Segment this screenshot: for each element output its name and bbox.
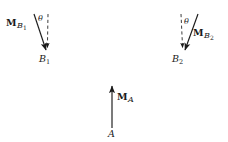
vector-diagram-svg (0, 0, 228, 142)
point-label-a: A (108, 129, 115, 139)
moment-symbol-b2: M (193, 27, 204, 38)
moment-symbol-b1: M (6, 17, 17, 28)
point-label-b1: B1 (39, 54, 50, 66)
point-label-b2: B2 (172, 54, 183, 66)
moment-label-b1: MB1 (6, 18, 27, 31)
moment-label-a: MA (117, 92, 134, 104)
reference-dashed-line-b2 (181, 14, 183, 48)
reference-dashed-line-b1 (47, 14, 48, 48)
moment-subscript-b2: B2 (204, 31, 214, 40)
moment-subscript-a: A (128, 95, 134, 104)
moment-symbol-a: M (117, 91, 128, 102)
moment-subscript-b1: B1 (17, 21, 27, 30)
angle-label-b2: θ (184, 18, 189, 26)
angle-label-b1: θ (38, 15, 43, 23)
moment-label-b2: MB2 (193, 28, 214, 41)
figure-canvas: MB1 θ B1 θ MB2 B2 MA A (0, 0, 228, 142)
